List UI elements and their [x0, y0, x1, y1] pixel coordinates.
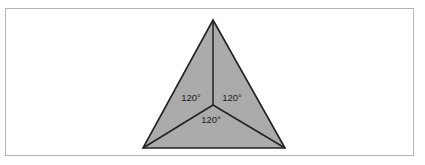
triangle-diagram: 120° 120° 120° — [0, 0, 425, 165]
angle-label-left: 120° — [181, 92, 201, 103]
triangle-shape — [143, 20, 285, 148]
angle-label-bottom: 120° — [201, 114, 221, 125]
angle-label-right: 120° — [222, 92, 242, 103]
figure-root: 120° 120° 120° — [0, 0, 425, 165]
